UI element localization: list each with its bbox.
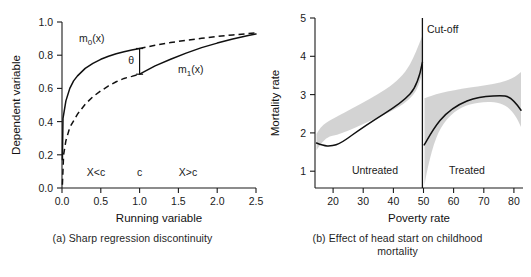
y-tick-label: 0.2 xyxy=(38,149,53,161)
chart-a-svg: 0.0 0.2 0.4 0.6 0.8 1.0 0.0 xyxy=(0,0,265,228)
y-tick-labels-b: 1 2 3 4 5 xyxy=(300,12,306,177)
y-tick-label: 0.0 xyxy=(38,182,53,194)
panel-b-plot: 1 2 3 4 5 20 30 xyxy=(265,0,530,228)
x-tick-label: 2.0 xyxy=(210,195,225,207)
y-tick-label: 5 xyxy=(300,12,306,24)
y-tick-label: 3 xyxy=(300,89,306,101)
svg-text:m0(x): m0(x) xyxy=(79,32,104,47)
x-tick-label: 1.0 xyxy=(132,195,147,207)
y-axis-title-b: Mortality rate xyxy=(269,70,281,136)
y-tick-label: 1 xyxy=(300,165,306,177)
panel-b-caption-line1: (b) Effect of head start on childhood xyxy=(265,232,530,245)
x-axis-title-a: Running variable xyxy=(116,212,202,224)
x-tick-label: 30 xyxy=(357,195,369,207)
x-tick-labels-a: 0.0 0.5 1.0 1.5 2.0 2.5 xyxy=(55,195,264,207)
x-tick-label: 60 xyxy=(448,195,460,207)
y-tick-label: 0.8 xyxy=(38,49,53,61)
x-tick-label: 1.5 xyxy=(171,195,186,207)
x-tick-label: 50 xyxy=(418,195,430,207)
x-axis-title-b: Poverty rate xyxy=(388,212,450,224)
curve-label-m1-base: m xyxy=(178,63,187,75)
curve-label-m0: m0(x) xyxy=(79,32,104,47)
panel-a-plot: 0.0 0.2 0.4 0.6 0.8 1.0 0.0 xyxy=(0,0,265,228)
y-tick-label: 0.6 xyxy=(38,82,53,94)
y-ticks-b xyxy=(310,18,315,171)
curve-m0-counterfactual-dashed xyxy=(140,33,256,49)
region-label-treated: Treated xyxy=(449,164,485,176)
x-tick-label: 0.0 xyxy=(55,195,70,207)
cutoff-label: Cut-off xyxy=(427,23,458,35)
x-tick-label: 2.5 xyxy=(249,195,264,207)
curve-label-m1-tail: (x) xyxy=(191,63,203,75)
y-tick-label: 1.0 xyxy=(38,16,53,28)
panel-b-caption-line2: mortality xyxy=(265,245,530,258)
y-tick-labels-a: 0.0 0.2 0.4 0.6 0.8 1.0 xyxy=(38,16,53,194)
y-tick-label: 2 xyxy=(300,127,306,139)
theta-label: θ xyxy=(128,54,134,66)
x-tick-label: 40 xyxy=(388,195,400,207)
panel-a-caption: (a) Sharp regression discontinuity xyxy=(0,232,265,245)
panel-b-caption: (b) Effect of head start on childhood mo… xyxy=(265,232,530,258)
x-tick-labels-b: 20 30 40 50 60 70 80 xyxy=(327,195,520,207)
x-tick-label: 0.5 xyxy=(93,195,108,207)
x-tick-label: 80 xyxy=(508,195,520,207)
panel-a-sharp-rd: 0.0 0.2 0.4 0.6 0.8 1.0 0.0 xyxy=(0,0,265,277)
ci-band-untreated xyxy=(317,36,423,151)
y-tick-label: 0.4 xyxy=(38,116,53,128)
y-tick-label: 4 xyxy=(300,50,306,62)
chart-b-svg: 1 2 3 4 5 20 30 xyxy=(265,0,530,228)
figure-two-panel: 0.0 0.2 0.4 0.6 0.8 1.0 0.0 xyxy=(0,0,531,277)
region-label-untreated: Untreated xyxy=(352,164,398,176)
confidence-bands xyxy=(317,36,522,186)
svg-text:m1(x): m1(x) xyxy=(178,63,203,78)
panel-b-head-start: 1 2 3 4 5 20 30 xyxy=(265,0,530,277)
x-ticks-a xyxy=(62,188,256,193)
x-ticks-b xyxy=(333,188,514,193)
y-axis-title-a: Dependent variable xyxy=(10,55,22,155)
y-ticks-a xyxy=(57,22,62,188)
curve-label-m0-tail: (x) xyxy=(92,32,104,44)
region-label-cutoff: c xyxy=(137,166,142,178)
x-tick-label: 70 xyxy=(478,195,490,207)
x-tick-label: 20 xyxy=(327,195,339,207)
curve-label-m0-base: m xyxy=(79,32,88,44)
region-label-right: X>c xyxy=(179,166,197,178)
region-label-left: X<c xyxy=(87,166,105,178)
curve-label-m1: m1(x) xyxy=(178,63,203,78)
